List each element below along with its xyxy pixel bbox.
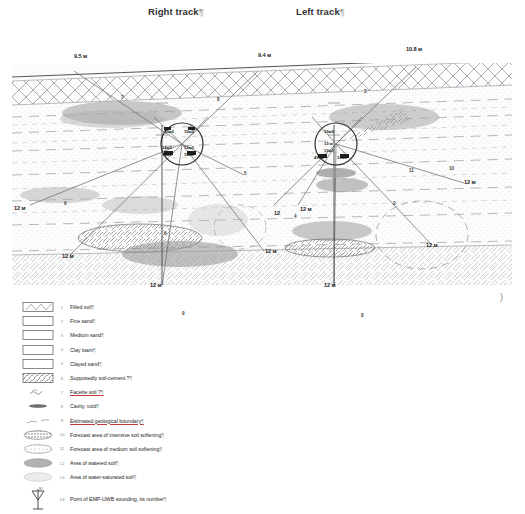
ray-number: 7	[121, 95, 123, 100]
legend-number: 4	[54, 347, 70, 352]
legend-label: Supposedly soil-cement ?¶	[70, 375, 132, 381]
track-label-left-text: Left track	[296, 6, 340, 17]
legend-number: 7	[54, 390, 70, 395]
ray-number: 10	[449, 166, 454, 171]
sounding-node-label: 13 м	[324, 141, 333, 146]
legend-label: Fine sand¶	[70, 318, 96, 324]
legend-number: 10	[54, 432, 70, 437]
legend-number: 1	[54, 305, 70, 310]
legend-item: 7 Facette soil ?¶	[22, 385, 322, 399]
swatch-cavity-icon	[22, 401, 54, 411]
softening-zone-medium	[122, 241, 238, 267]
legend-item: 3 Medium sand¶	[22, 328, 322, 342]
ray-number: 11	[409, 168, 414, 173]
legend-label: Clay loam¶	[70, 347, 96, 353]
depth-label: 9.5 м	[74, 53, 87, 59]
pilcrow-icon: ¶	[93, 318, 96, 324]
sounding-node-label: 14м3	[162, 145, 172, 150]
legend-item: 12 Area of watered soil¶	[22, 456, 322, 470]
legend-label: Area of watered soil¶	[70, 460, 119, 466]
anomaly-zone	[316, 178, 368, 192]
pilcrow-icon: ¶	[101, 389, 104, 395]
pilcrow-icon: ¶	[199, 6, 204, 17]
pilcrow-icon: ¶	[92, 304, 95, 310]
swatch-geological-boundary-icon	[22, 416, 54, 426]
depth-label: 12 м	[14, 205, 26, 211]
pilcrow-icon: ¶	[116, 460, 119, 466]
geological-cross-section: 9.5 м 9.4 м 10.8 м 12 м 12 м 12 м 12 м 1…	[12, 55, 512, 290]
legend-number: 9	[54, 418, 70, 423]
track-label-right-text: Right track	[148, 6, 199, 17]
sounding-node-label: 15м3	[184, 129, 194, 134]
ray-number: 9	[64, 201, 66, 206]
legend-item: Nº 14 Point of EMP-UWB sounding, its num…	[22, 484, 322, 514]
swatch-soil-cement-icon	[22, 373, 54, 383]
depth-label: 12	[274, 210, 280, 216]
track-label-right: Right track¶	[148, 6, 204, 17]
depth-label: 12 м	[426, 242, 438, 248]
legend-item: 6 Supposedly soil-cement ?¶	[22, 371, 322, 385]
pilcrow-icon: ¶	[93, 347, 96, 353]
legend-item: 1 Filled soil¶	[22, 300, 322, 314]
legend-label: Area of water-saturated soil¶	[70, 474, 136, 480]
stray-paren-mark: )	[500, 292, 503, 302]
legend-item: 2 Fine sand¶	[22, 314, 322, 328]
swatch-facette-soil-icon	[22, 387, 54, 397]
track-headers: Right track¶ Left track¶	[0, 6, 525, 28]
pilcrow-icon: ¶	[96, 403, 99, 409]
sounding-node-label: 13м3	[337, 155, 347, 160]
swatch-clayed-sand-icon	[22, 359, 54, 369]
pilcrow-icon: ¶	[133, 474, 136, 480]
sounding-node-label: 15м3	[184, 152, 194, 157]
ray-number: 4	[294, 214, 296, 219]
sounding-node-label: 47м3	[314, 155, 324, 160]
swatch-water-saturated-soil-icon	[22, 472, 54, 482]
ray-number: 5	[244, 171, 246, 176]
legend-number: 3	[54, 333, 70, 338]
legend-label: Filled soil¶	[70, 304, 94, 310]
sounding-node-label: 13м1	[324, 148, 334, 153]
anomaly-zone	[60, 110, 164, 128]
sounding-node-label: 13м3	[324, 129, 334, 134]
pilcrow-icon: ¶	[340, 6, 345, 17]
swatch-medium-sand-icon	[22, 330, 54, 340]
legend-item: 8 Cavity, void¶	[22, 399, 322, 413]
legend-number: 11	[54, 446, 70, 451]
legend-number: 12	[54, 461, 70, 466]
anomaly-zone	[188, 204, 248, 236]
legend-label: Forecast area of intensive soil softenin…	[70, 432, 164, 438]
legend-label: Estimated geological boundary¶	[70, 418, 144, 424]
depth-label: 12 м	[62, 253, 74, 259]
legend-item: 10 Forecast area of intensive soil softe…	[22, 428, 322, 442]
sounding-node-label: 15м3	[164, 129, 174, 134]
anomaly-zone	[20, 187, 100, 203]
sounding-node-label: 13м3	[184, 145, 194, 150]
depth-label: 9.4 м	[258, 52, 271, 58]
legend-label: Forecast area of medium soil softening¶	[70, 446, 162, 452]
swatch-fine-sand-icon	[22, 316, 54, 326]
pilcrow-icon: ¶	[129, 375, 132, 381]
swatch-clay-loam-icon	[22, 345, 54, 355]
pilcrow-icon: ¶	[99, 361, 102, 367]
legend-number: 5	[54, 361, 70, 366]
legend-number: 6	[54, 376, 70, 381]
depth-label: 12 м	[150, 282, 162, 288]
anomaly-zone	[292, 221, 372, 241]
pilcrow-icon: ¶	[101, 332, 104, 338]
legend-label: Cavity, void¶	[70, 403, 99, 409]
ray-number: 8	[217, 97, 219, 102]
pilcrow-icon: ¶	[141, 418, 144, 424]
swatch-watered-soil-icon	[22, 458, 54, 468]
legend-label: Medium sand¶	[70, 332, 104, 338]
pilcrow-icon: ¶	[159, 446, 162, 452]
track-label-left: Left track¶	[296, 6, 345, 17]
ray-number: 6	[164, 231, 166, 236]
cross-section-svg	[12, 55, 512, 290]
legend-number: 8	[54, 404, 70, 409]
depth-label: 12 м	[464, 179, 476, 185]
legend-number: 13	[54, 475, 70, 480]
pilcrow-icon: ¶	[161, 432, 164, 438]
ray-number: 8	[361, 313, 363, 318]
ray-number: 3	[364, 89, 366, 94]
svg-text:Nº: Nº	[39, 487, 44, 491]
